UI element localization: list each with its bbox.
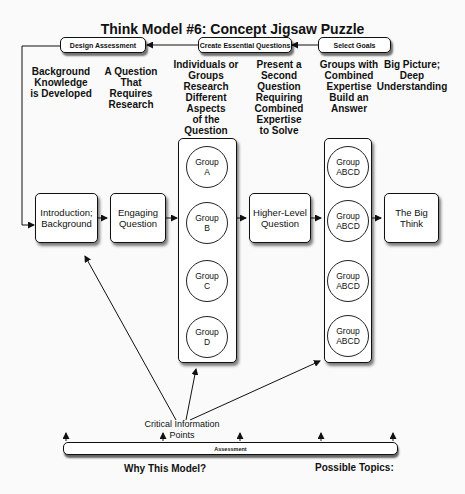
group-abcd-circle-4: GroupABCD xyxy=(327,315,369,357)
introduction-background-box: Introduction;Background xyxy=(35,193,98,243)
big-think-box: The BigThink xyxy=(384,193,439,243)
critical-information-points-label: Critical Information Points xyxy=(140,419,224,441)
group-a-circle: GroupA xyxy=(186,146,228,188)
group-abcd-circle-1: GroupABCD xyxy=(327,146,369,188)
group-d-circle: GroupD xyxy=(186,316,228,358)
caption-groups-research: Individuals or Groups Research Different… xyxy=(170,59,242,136)
caption-combined-expertise: Groups with Combined Expertise Build an … xyxy=(316,59,382,114)
engaging-question-box: EngagingQuestion xyxy=(110,193,166,243)
caption-background-knowledge: Background Knowledge is Developed xyxy=(28,66,94,99)
assessment-bar: Assessment xyxy=(63,442,398,455)
design-assessment-step: Design Assessment xyxy=(60,37,146,53)
caption-question-requires-research: A Question That Requires Research xyxy=(100,66,162,110)
group-b-circle: GroupB xyxy=(186,202,228,244)
why-this-model-heading: Why This Model? xyxy=(124,463,206,474)
higher-level-question-box: Higher-LevelQuestion xyxy=(249,193,311,243)
group-c-circle: GroupC xyxy=(186,260,228,302)
page-title: Think Model #6: Concept Jigsaw Puzzle xyxy=(0,21,465,37)
caption-big-picture: Big Picture; Deep Understanding xyxy=(376,59,448,92)
caption-second-question: Present a Second Question Requiring Comb… xyxy=(248,59,310,136)
group-abcd-circle-3: GroupABCD xyxy=(327,260,369,302)
create-essential-questions-step: Create Essential Questions xyxy=(198,37,292,53)
group-abcd-circle-2: GroupABCD xyxy=(327,200,369,242)
possible-topics-heading: Possible Topics: xyxy=(315,462,394,473)
select-goals-step: Select Goals xyxy=(318,37,391,53)
